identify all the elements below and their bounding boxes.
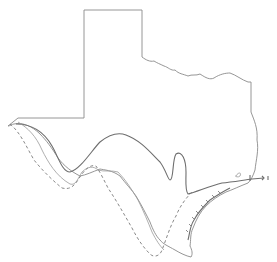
range-boundary-dashed bbox=[10, 124, 192, 256]
range-boundary-thin bbox=[18, 122, 164, 250]
coastal-line bbox=[188, 188, 230, 240]
texas-map bbox=[0, 0, 277, 262]
coastal-feature bbox=[235, 173, 240, 177]
range-boundary-solid bbox=[16, 124, 264, 194]
state-border bbox=[8, 10, 258, 257]
